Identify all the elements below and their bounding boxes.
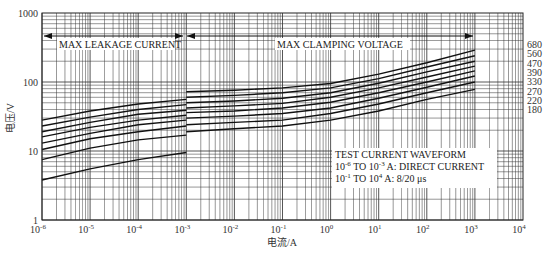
x-tick-label: 10-1 [271, 223, 287, 235]
annotation-title: TEST CURRENT WAVEFORM [335, 149, 466, 160]
x-tick-label: 10-6 [30, 223, 46, 235]
annotation-line-1: 10-6 TO 10-3 A: DIRECT CURRENT [335, 160, 484, 172]
y-axis-label: 电压/V [4, 102, 16, 133]
x-tick-label: 10-2 [222, 223, 238, 235]
x-axis-ticks: 10-610-510-410-310-210-1100101102103104 [30, 223, 526, 235]
x-tick-label: 101 [368, 223, 382, 235]
x-tick-label: 100 [320, 223, 334, 235]
x-axis-label: 电流/A [267, 236, 298, 248]
legend-item: 180 [527, 104, 542, 115]
x-tick-label: 104 [512, 223, 526, 235]
y-axis-ticks: 1000 100 10 1 [18, 8, 38, 226]
x-tick-label: 103 [464, 223, 478, 235]
svg-text:10: 10 [28, 146, 38, 157]
x-tick-label: 10-3 [174, 223, 190, 235]
svg-text:100: 100 [23, 77, 38, 88]
curve-270 [42, 76, 475, 150]
leakage-region-label: MAX LEAKAGE CURRENT [59, 39, 181, 50]
svg-text:1000: 1000 [18, 8, 38, 19]
clamping-region-label: MAX CLAMPING VOLTAGE [277, 39, 403, 50]
x-tick-label: 10-5 [78, 223, 94, 235]
vi-characteristic-chart: MAX LEAKAGE CURRENT MAX CLAMPING VOLTAGE… [0, 0, 549, 262]
x-tick-label: 10-4 [126, 223, 142, 235]
curve-390 [42, 66, 475, 137]
x-tick-label: 102 [416, 223, 430, 235]
legend: 680560470390330270220180 [527, 39, 542, 115]
